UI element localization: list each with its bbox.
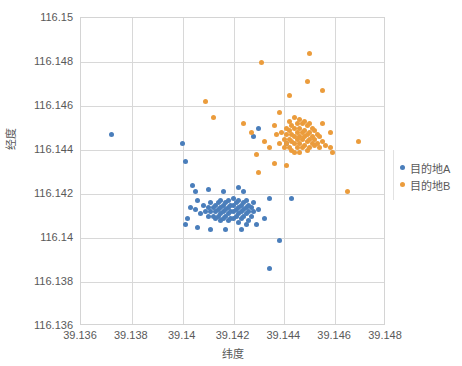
gridline-horizontal — [81, 150, 384, 151]
y-tick-label: 116.14 — [40, 231, 73, 243]
legend-item[interactable]: 目的地B — [400, 177, 460, 192]
data-point — [180, 141, 185, 146]
data-point — [246, 218, 251, 223]
data-point — [267, 266, 272, 271]
gridline-vertical — [284, 18, 285, 324]
data-point — [183, 159, 188, 164]
y-tick-label: 116.138 — [34, 275, 73, 287]
x-tick-label: 39.144 — [267, 329, 301, 341]
x-axis-title: 纬度 — [80, 345, 385, 361]
legend-marker-icon — [400, 182, 405, 187]
data-point — [256, 170, 261, 175]
legend: 目的地A目的地B — [400, 160, 460, 194]
data-point — [320, 121, 325, 126]
data-point — [356, 139, 361, 144]
data-point — [211, 115, 216, 120]
data-point — [190, 183, 195, 188]
gridline-horizontal — [81, 106, 384, 107]
x-tick-label: 39.14 — [168, 329, 196, 341]
legend-label: 目的地A — [410, 160, 450, 176]
data-point — [236, 220, 241, 225]
data-point — [272, 123, 277, 128]
data-point — [254, 222, 259, 227]
data-point — [267, 196, 272, 201]
legend-label: 目的地B — [410, 177, 450, 193]
data-point — [330, 150, 335, 155]
data-point — [206, 187, 211, 192]
y-tick-label: 116.144 — [34, 143, 73, 155]
data-point — [328, 130, 333, 135]
data-point — [287, 93, 292, 98]
data-point — [195, 225, 200, 230]
y-tick-label: 116.146 — [34, 99, 73, 111]
data-point — [320, 88, 325, 93]
x-tick-label: 39.142 — [216, 329, 250, 341]
data-point — [251, 200, 256, 205]
gridline-vertical — [183, 18, 184, 324]
data-point — [323, 143, 328, 148]
data-point — [267, 145, 272, 150]
data-point — [256, 207, 261, 212]
x-tick-label: 39.136 — [63, 329, 97, 341]
y-tick-label: 116.142 — [34, 187, 73, 199]
data-point — [244, 222, 249, 227]
plot-area — [80, 17, 385, 325]
y-tick-label: 116.148 — [34, 55, 73, 67]
gridline-horizontal — [81, 238, 384, 239]
scatter-chart: 经度 116.136116.138116.14116.142116.144116… — [0, 0, 462, 366]
data-point — [305, 79, 310, 84]
data-point — [185, 216, 190, 221]
data-point — [277, 238, 282, 243]
data-point — [259, 60, 264, 65]
data-point — [109, 132, 114, 137]
data-point — [206, 214, 211, 219]
data-point — [249, 130, 254, 135]
legend-marker-icon — [400, 165, 405, 170]
data-point — [256, 126, 261, 131]
data-point — [203, 99, 208, 104]
legend-divider — [393, 150, 394, 200]
data-point — [289, 196, 294, 201]
data-point — [193, 207, 198, 212]
data-point — [183, 222, 188, 227]
data-point — [277, 110, 282, 115]
x-tick-label: 39.146 — [317, 329, 351, 341]
gridline-horizontal — [81, 194, 384, 195]
data-point — [251, 134, 256, 139]
legend-item[interactable]: 目的地A — [400, 160, 460, 175]
data-point — [223, 227, 228, 232]
data-point — [297, 150, 302, 155]
x-tick-label: 39.148 — [368, 329, 402, 341]
gridline-horizontal — [81, 62, 384, 63]
gridline-vertical — [234, 18, 235, 324]
data-point — [284, 163, 289, 168]
x-tick-label: 39.138 — [114, 329, 148, 341]
data-point — [249, 214, 254, 219]
data-point — [195, 198, 200, 203]
y-tick-label: 116.15 — [40, 11, 73, 23]
y-axis-title: 经度 — [2, 128, 18, 150]
data-point — [307, 51, 312, 56]
data-point — [262, 139, 267, 144]
data-point — [236, 185, 241, 190]
data-point — [262, 216, 267, 221]
data-point — [201, 203, 206, 208]
data-point — [239, 227, 244, 232]
data-point — [272, 161, 277, 166]
gridline-vertical — [132, 18, 133, 324]
data-point — [241, 121, 246, 126]
data-point — [254, 152, 259, 157]
gridline-vertical — [335, 18, 336, 324]
gridline-horizontal — [81, 282, 384, 283]
data-point — [208, 227, 213, 232]
data-point — [277, 141, 282, 146]
